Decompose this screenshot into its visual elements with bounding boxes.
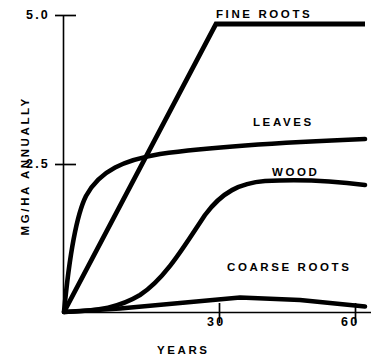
x-axis-tick-label-30: 30 [207, 316, 225, 329]
series-label-fine-roots: FINE ROOTS [216, 9, 312, 21]
x-axis-tick-label-60: 60 [341, 316, 359, 329]
y-axis-tick-label-5: 5.0 [26, 9, 50, 22]
y-axis-title: MG/HA ANNUALLY [20, 86, 32, 246]
series-line-wood [64, 180, 365, 312]
chart-plot-area [0, 0, 373, 364]
series-label-wood: WOOD [272, 167, 319, 179]
series-label-leaves: LEAVES [253, 117, 314, 129]
series-label-coarse-roots: COARSE ROOTS [227, 262, 352, 274]
biomass-production-chart: 5.0 2.5 30 60 FINE ROOTS LEAVES WOOD COA… [0, 0, 373, 364]
series-line-coarse-roots [64, 298, 365, 313]
x-axis-title: YEARS [157, 345, 210, 357]
